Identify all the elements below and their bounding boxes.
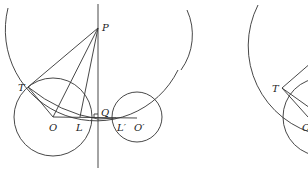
label-T: T (18, 82, 26, 93)
line-P-O (53, 28, 98, 117)
label-L: L (75, 122, 83, 133)
label-O-prime: O′ (134, 122, 145, 133)
label-P: P (101, 22, 109, 33)
right-label-T: T (272, 83, 280, 94)
line-O-O-prime (53, 117, 137, 118)
left-figure: P T O L Q L′ O′ (5, 4, 178, 168)
label-O: O (49, 122, 57, 133)
right-figure: T O (248, 5, 308, 156)
label-L-prime: L′ (116, 122, 127, 133)
middle-arc-fragment (181, 10, 192, 70)
label-Q: Q (101, 107, 109, 118)
right-big-circle-arc (248, 5, 308, 135)
circle-O-prime (112, 92, 162, 142)
geometry-diagram: P T O L Q L′ O′ T O (0, 0, 308, 170)
right-circle-O (283, 78, 308, 156)
big-circle-arc (5, 8, 178, 121)
right-label-O: O (302, 122, 308, 133)
right-line-T-curve (282, 88, 308, 108)
right-line-T-up (282, 62, 308, 88)
